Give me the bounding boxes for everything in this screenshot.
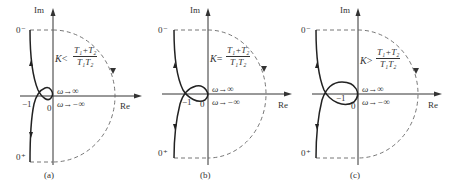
omega-neg-inf: ω→−∞ (362, 98, 390, 107)
label-0-plus: 0⁺ (16, 153, 26, 162)
axis-im-label: Im (190, 6, 200, 15)
condition-k: K= (210, 54, 222, 64)
fraction-denominator: T₁T₂ (230, 57, 246, 67)
k-symbol: K (210, 53, 217, 64)
caption-c: (c) (350, 170, 360, 180)
label-origin: 0 (200, 100, 205, 109)
omega-pos-inf: ω→∞ (57, 87, 79, 96)
label-origin: 0 (47, 104, 52, 113)
comparison-operator: < (62, 53, 68, 64)
fraction: T₁+T₂ T₁T₂ (226, 46, 250, 67)
fraction-numerator: T₁+T₂ (376, 48, 400, 59)
omega-pos-inf: ω→∞ (212, 85, 234, 94)
fraction: T₁+T₂ T₁T₂ (73, 46, 97, 67)
fraction-denominator: T₁T₂ (77, 57, 93, 67)
condition-k: K> (360, 56, 372, 66)
condition-k: K< (55, 54, 67, 64)
label-0-plus: 0⁺ (301, 149, 311, 158)
k-symbol: K (55, 53, 62, 64)
axis-im-label: Im (34, 6, 44, 15)
label-0-minus: 0⁻ (301, 26, 311, 35)
label-0-minus: 0⁻ (16, 26, 26, 35)
omega-neg-inf: ω→−∞ (57, 100, 85, 109)
label-minus-one: −1 (22, 100, 32, 109)
comparison-operator: > (367, 55, 373, 66)
axis-im-label: Im (340, 6, 350, 15)
label-minus-one: −1 (336, 94, 346, 103)
axis-re-label: Re (428, 101, 438, 110)
fraction-denominator: T₁T₂ (380, 59, 396, 69)
omega-neg-inf: ω→−∞ (212, 98, 240, 107)
label-origin: 0 (351, 102, 356, 111)
fraction-numerator: T₁+T₂ (226, 46, 250, 57)
axis-re-label: Re (120, 102, 130, 111)
caption-b: (b) (200, 170, 211, 180)
caption-a: (a) (44, 170, 54, 180)
k-symbol: K (360, 55, 367, 66)
label-0-minus: 0⁻ (158, 26, 168, 35)
nyquist-panel-a: Im Re 0⁻ 0⁺ −1 0 ω→∞ ω→−∞ K< T₁+T₂ T₁T₂ … (0, 0, 150, 193)
nyquist-panel-c: Im Re 0⁻ 0⁺ −1 0 ω→∞ ω→−∞ K> T₁+T₂ T₁T₂ … (300, 0, 452, 193)
omega-pos-inf: ω→∞ (362, 85, 384, 94)
label-minus-one: −1 (182, 98, 192, 107)
axis-re-label: Re (278, 101, 288, 110)
label-0-plus: 0⁺ (158, 149, 168, 158)
comparison-operator: = (217, 53, 223, 64)
nyquist-panel-b: Im Re 0⁻ 0⁺ −1 0 ω→∞ ω→−∞ K= T₁+T₂ T₁T₂ … (150, 0, 300, 193)
fraction: T₁+T₂ T₁T₂ (376, 48, 400, 69)
fraction-numerator: T₁+T₂ (73, 46, 97, 57)
